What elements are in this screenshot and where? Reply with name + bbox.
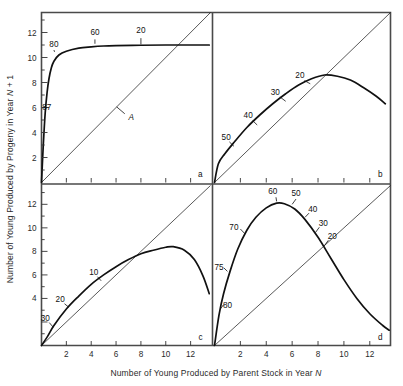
xtick-label-d-2: 2 [238,350,243,359]
leader-a-1 [54,50,55,52]
xtick-label-c-6: 6 [114,350,119,359]
curve-label-d-60: 60 [268,187,278,196]
replacement-line-d [215,186,391,346]
y-axis-label: Number of Young Produced by Progeny in Y… [5,75,15,284]
y-tick-labels: 246810124681012 [27,29,37,304]
curve-c [42,246,210,345]
ytick-label-a-6: 6 [32,104,37,113]
curve-label-b-40: 40 [244,111,254,120]
curve-label-b-50: 50 [222,133,232,142]
y-axis-label-suffix: + 1 [5,75,15,90]
curve-d [215,203,390,346]
xtick-label-d-12: 12 [365,350,375,359]
xtick-label-c-8: 8 [139,350,144,359]
leader-c-1 [64,304,68,308]
xtick-label-c-2: 2 [64,350,69,359]
panel-c: 302010c [41,186,211,346]
x-axis-label-text: Number of Young Produced by Parent Stock… [110,368,315,378]
ytick-label-c-8: 8 [32,247,37,256]
ytick-label-a-4: 4 [32,129,37,138]
leader-d-1 [224,268,228,272]
curve-label-d-30: 30 [319,219,329,228]
x-axis-label: Number of Young Produced by Parent Stock… [110,368,322,378]
curve-label-a-60: 60 [90,28,100,37]
curve-label-d-50: 50 [291,189,301,198]
xtick-label-c-12: 12 [186,350,196,359]
replacement-line-label: A [127,113,134,122]
ytick-label-c-6: 6 [32,271,37,280]
panel-d: 8075706050403020d [214,186,390,346]
curve-label-a-80: 80 [49,40,59,49]
curve-label-b-20: 20 [295,71,305,80]
leader-d-2 [240,229,245,234]
leader-b-2 [280,97,286,101]
leader-d-3 [276,197,277,201]
xtick-label-d-6: 6 [290,350,295,359]
x-tick-labels: 2468101224681012 [64,350,375,359]
leader-d-5 [305,213,309,217]
curve-label-d-70: 70 [229,223,239,232]
xtick-label-c-4: 4 [89,350,94,359]
ytick-label-c-10: 10 [27,224,37,233]
replacement-line-a [42,13,211,183]
replacement-line-c [42,186,211,346]
curve-a [42,45,210,183]
figure-container: 87806020a50403020b302010c807570605040302… [0,0,403,386]
panel-b: 50403020b [215,13,391,183]
curve-label-d-20: 20 [328,232,338,241]
ytick-label-c-12: 12 [27,200,37,209]
curve-label-c-30: 30 [41,314,51,323]
curve-label-b-30: 30 [271,88,281,97]
panel-label-b: b [378,170,383,179]
curve-label-c-10: 10 [89,268,99,277]
ytick-label-c-4: 4 [32,294,37,303]
curve-label-a-20: 20 [136,26,146,35]
curve-label-d-80: 80 [223,301,233,310]
leader-c-0 [49,323,53,328]
curve-label-c-20: 20 [56,295,66,304]
chart-svg: 87806020a50403020b302010c807570605040302… [0,0,403,386]
panel-label-c: c [198,333,202,342]
replacement-line-b [215,13,391,183]
leader-d-4 [292,199,296,204]
panel-label-d: d [378,333,383,342]
xtick-label-c-10: 10 [161,350,171,359]
y-axis-label-text: Number of Young Produced by Progeny in Y… [5,96,15,283]
curve-label-d-40: 40 [308,205,318,214]
replacement-line-label-group: A [117,107,135,122]
xtick-label-d-8: 8 [316,350,321,359]
panel-a: 87806020a [42,13,211,183]
ytick-label-a-10: 10 [27,54,37,63]
x-axis-label-var: N [315,368,322,378]
leader-b-1 [253,121,258,125]
xtick-label-d-4: 4 [264,350,269,359]
curve-label-d-75: 75 [214,263,224,272]
ytick-label-a-2: 2 [32,154,37,163]
ytick-label-a-12: 12 [27,29,37,38]
ytick-label-a-8: 8 [32,79,37,88]
xtick-label-d-10: 10 [339,350,349,359]
panel-label-a: a [198,170,203,179]
curve-b [215,75,386,183]
replacement-line-leader [117,107,125,114]
leader-d-6 [315,227,319,232]
